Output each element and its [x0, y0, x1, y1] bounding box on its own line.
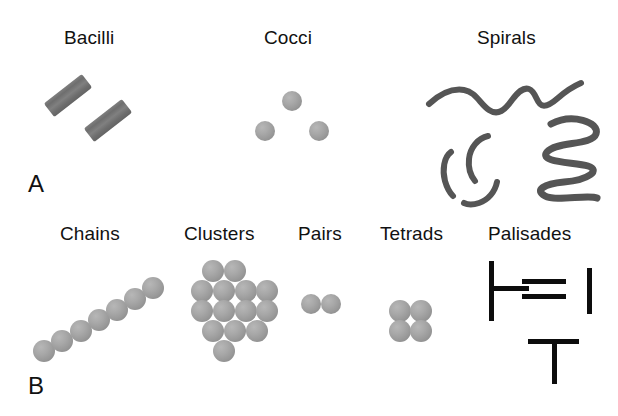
group-label-chains: Chains [60, 224, 120, 243]
tetrad-coccus-sphere [389, 320, 411, 342]
palisade-bar-vertical-left [489, 261, 494, 321]
cluster-coccus-sphere [213, 280, 235, 302]
cluster-coccus-sphere [213, 340, 235, 362]
panel-letter-b: B [28, 374, 44, 398]
cluster-coccus-sphere [235, 280, 257, 302]
cluster-coccus-sphere [202, 260, 224, 282]
coccus-sphere [255, 121, 275, 141]
cluster-coccus-sphere [256, 300, 278, 322]
group-label-cocci: Cocci [264, 28, 312, 47]
cluster-coccus-sphere [213, 300, 235, 322]
cluster-coccus-sphere [202, 320, 224, 342]
cluster-coccus-sphere [246, 320, 268, 342]
group-label-tetrads: Tetrads [380, 224, 443, 243]
vibrio-arc-icon [464, 182, 497, 205]
bacillus-rod [84, 99, 132, 142]
palisade-bar-vertical-tee [552, 339, 557, 384]
palisade-bar-vertical-right [587, 268, 592, 314]
cluster-coccus-sphere [235, 300, 257, 322]
cluster-coccus-sphere [191, 280, 213, 302]
spirochete-wave-icon [429, 83, 581, 112]
tetrad-coccus-sphere [389, 300, 411, 322]
tetrad-coccus-sphere [410, 300, 432, 322]
pair-coccus-sphere [301, 294, 321, 314]
palisade-bar-horizontal-lower [522, 294, 566, 299]
chain-coccus-sphere [142, 277, 164, 299]
vibrio-arc-icon [469, 136, 488, 181]
tetrad-coccus-sphere [410, 320, 432, 342]
group-label-palisades: Palisades [488, 224, 571, 243]
bacterial-morphology-figure: Bacilli Cocci Spirals A Chains Clusters … [0, 0, 618, 416]
group-label-spirals: Spirals [477, 28, 536, 47]
palisade-bar-horizontal-upper [522, 279, 566, 284]
group-label-clusters: Clusters [184, 224, 254, 243]
cluster-coccus-sphere [191, 300, 213, 322]
coccus-sphere [282, 91, 302, 111]
coccus-sphere [309, 121, 329, 141]
palisade-bar-horizontal-left [489, 286, 529, 291]
cluster-coccus-sphere [224, 260, 246, 282]
group-label-pairs: Pairs [298, 224, 342, 243]
spirillum-coil-icon [540, 119, 597, 198]
spirals-group [0, 0, 618, 416]
bacillus-rod [44, 74, 92, 117]
cluster-coccus-sphere [224, 320, 246, 342]
group-label-bacilli: Bacilli [64, 28, 114, 47]
vibrio-arc-icon [444, 152, 453, 196]
cluster-coccus-sphere [256, 280, 278, 302]
pair-coccus-sphere [321, 294, 341, 314]
panel-letter-a: A [28, 172, 44, 196]
